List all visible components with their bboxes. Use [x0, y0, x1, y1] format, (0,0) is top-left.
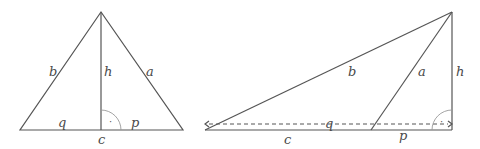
label-q: q	[325, 116, 333, 131]
obtuse-triangle-figure: · b a h q c p	[205, 12, 464, 147]
arrow-left-icon	[205, 121, 209, 127]
label-h: h	[456, 64, 464, 79]
label-c: c	[98, 132, 106, 147]
label-c: c	[284, 132, 292, 147]
right-angle-dot: ·	[109, 116, 112, 127]
label-b: b	[49, 64, 57, 79]
label-p: p	[131, 115, 140, 130]
label-p: p	[399, 128, 408, 143]
label-a: a	[146, 64, 154, 79]
right-angle-dot: ·	[440, 116, 443, 127]
label-h: h	[104, 64, 112, 79]
label-b: b	[348, 64, 356, 79]
triangle-diagram: · b h a q p c · b a h q c p	[0, 0, 480, 149]
label-a: a	[418, 64, 426, 79]
acute-triangle-figure: · b h a q p c	[20, 12, 183, 147]
side-b	[205, 12, 452, 130]
side-a	[371, 12, 452, 130]
label-q: q	[58, 115, 66, 130]
